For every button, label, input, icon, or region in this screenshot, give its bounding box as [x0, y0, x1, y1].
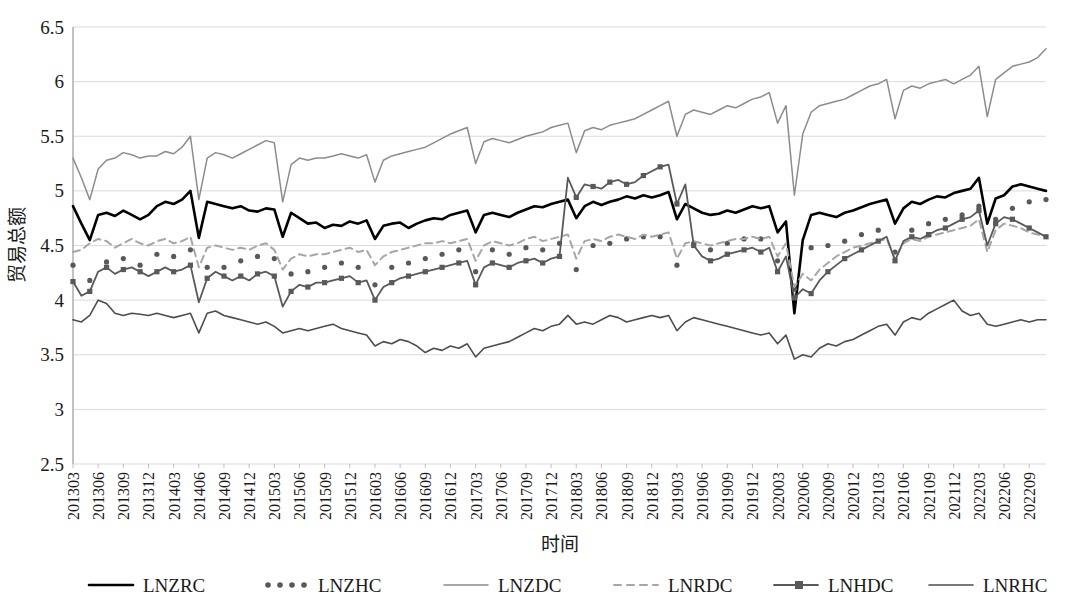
y-tick-label: 3.5 [40, 344, 64, 365]
data-point [1043, 197, 1048, 202]
x-tick-label: 201706 [493, 472, 510, 520]
data-point-marker [406, 273, 411, 278]
data-point [775, 258, 780, 263]
data-point [322, 265, 327, 270]
data-point-marker [171, 269, 176, 274]
legend-label: LNRDC [668, 575, 732, 596]
data-point-marker [288, 289, 293, 294]
legend-item-lnrhc[interactable]: LNRHC [929, 575, 1047, 596]
x-tick-label: 201712 [543, 472, 560, 520]
y-tick-label: 6 [55, 71, 65, 92]
legend-swatch-dot [289, 582, 295, 588]
data-point-marker [926, 232, 931, 237]
data-point [590, 243, 595, 248]
y-tick-label: 4.5 [40, 235, 64, 256]
legend-label: LNZDC [498, 575, 561, 596]
data-point [423, 256, 428, 261]
x-tick-label: 201909 [719, 472, 736, 520]
data-point [926, 221, 931, 226]
legend-item-lnzdc[interactable]: LNZDC [444, 575, 561, 596]
x-tick-label: 202203 [971, 472, 988, 520]
data-point-marker [993, 221, 998, 226]
data-point-marker [725, 252, 730, 257]
data-point [439, 252, 444, 257]
legend-item-lnhdc[interactable]: LNHDC [774, 575, 893, 596]
data-point [809, 245, 814, 250]
data-point-marker [809, 291, 814, 296]
x-tick-label: 201606 [392, 472, 409, 520]
data-point [607, 241, 612, 246]
legend-item-lnrdc[interactable]: LNRDC [614, 575, 732, 596]
x-tick-label: 202209 [1021, 472, 1038, 520]
x-tick-label: 201803 [568, 472, 585, 520]
x-tick-label: 201703 [468, 472, 485, 520]
data-point [842, 239, 847, 244]
x-tick-label: 201903 [669, 472, 686, 520]
data-point-marker [322, 280, 327, 285]
data-point-marker [909, 234, 914, 239]
data-point-marker [641, 173, 646, 178]
line-chart: 6.565.554.543.532.5贸易总额20130320130620130… [0, 0, 1067, 611]
data-point-marker [876, 239, 881, 244]
data-point [1010, 206, 1015, 211]
data-point-marker [943, 225, 948, 230]
x-tick-label: 201406 [191, 472, 208, 520]
x-tick-label: 201312 [140, 472, 157, 520]
data-point-marker [221, 273, 226, 278]
data-point-marker [339, 276, 344, 281]
data-point [909, 228, 914, 233]
data-point [121, 256, 126, 261]
x-tick-label: 202112 [946, 472, 963, 519]
data-point-marker [272, 273, 277, 278]
data-point-marker [792, 295, 797, 300]
y-tick-labels: 6.565.554.543.532.5 [40, 17, 64, 475]
data-point-marker [1043, 234, 1048, 239]
data-point-marker [624, 182, 629, 187]
data-point-marker [490, 260, 495, 265]
data-point-marker [691, 243, 696, 248]
y-tick-label: 5.5 [40, 126, 64, 147]
x-tick-label: 201812 [644, 472, 661, 520]
data-point [255, 254, 260, 259]
data-point-marker [87, 289, 92, 294]
data-point [70, 263, 75, 268]
data-point-marker [507, 265, 512, 270]
markers-lnhdc [70, 164, 1048, 302]
data-point-marker [70, 279, 75, 284]
data-point-marker [154, 269, 159, 274]
x-tick-label: 201609 [417, 472, 434, 520]
data-point [104, 259, 109, 264]
x-tick-label: 201603 [367, 472, 384, 520]
x-tick-label: 201806 [593, 472, 610, 520]
data-point-marker [456, 260, 461, 265]
chart-container: 6.565.554.543.532.5贸易总额20130320130620130… [0, 0, 1067, 611]
data-point-marker [523, 258, 528, 263]
x-tick-label: 202206 [996, 472, 1013, 520]
data-point-marker [305, 284, 310, 289]
data-point-marker [741, 247, 746, 252]
series-group [70, 49, 1048, 359]
x-tick-label: 201512 [342, 472, 359, 520]
legend-item-lnzrc[interactable]: LNZRC [89, 575, 205, 596]
data-point-marker [389, 280, 394, 285]
data-point [825, 243, 830, 248]
data-point-marker [138, 269, 143, 274]
data-point [456, 247, 461, 252]
data-point-marker [758, 249, 763, 254]
legend-swatch-dot [265, 582, 271, 588]
y-tick-label: 4 [55, 290, 65, 311]
x-tick-label: 201709 [518, 472, 535, 520]
data-point-marker [255, 271, 260, 276]
series-lnrhc [73, 300, 1046, 359]
data-point [87, 278, 92, 283]
x-tick-label: 201403 [166, 472, 183, 520]
data-point [138, 263, 143, 268]
data-point [305, 269, 310, 274]
data-point-marker [708, 258, 713, 263]
legend-label: LNRHC [983, 575, 1047, 596]
legend-item-lnzhc[interactable]: LNZHC [265, 575, 381, 596]
data-point [876, 228, 881, 233]
y-tick-label: 2.5 [40, 454, 64, 475]
x-tick-label: 201309 [115, 472, 132, 520]
x-tick-labels: 2013032013062013092013122014032014062014… [65, 464, 1038, 520]
